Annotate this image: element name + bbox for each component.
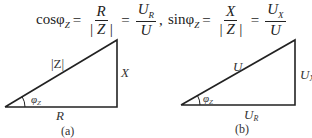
impedance-triangle: |Z| X R φZ (a) <box>5 40 130 138</box>
triangle-diagrams: |Z| X R φZ (a) U UX UR φZ (b) <box>0 0 312 138</box>
vertical-label-a: X <box>120 65 130 80</box>
vertical-label-b: UX <box>300 67 312 83</box>
hypotenuse-label-b: U <box>233 59 244 74</box>
angle-label-a: φZ <box>31 93 41 107</box>
base-label-a: R <box>55 108 64 123</box>
voltage-triangle: U UX UR φZ (b) <box>181 40 312 136</box>
triangle-a-outline <box>5 40 117 107</box>
caption-a: (a) <box>61 124 74 138</box>
angle-arc-b <box>198 96 201 105</box>
hypotenuse-label-a: |Z| <box>51 56 64 71</box>
caption-b: (b) <box>235 122 249 136</box>
base-label-b: UR <box>244 107 258 123</box>
angle-arc-a <box>22 97 25 107</box>
angle-label-b: φZ <box>203 92 213 106</box>
